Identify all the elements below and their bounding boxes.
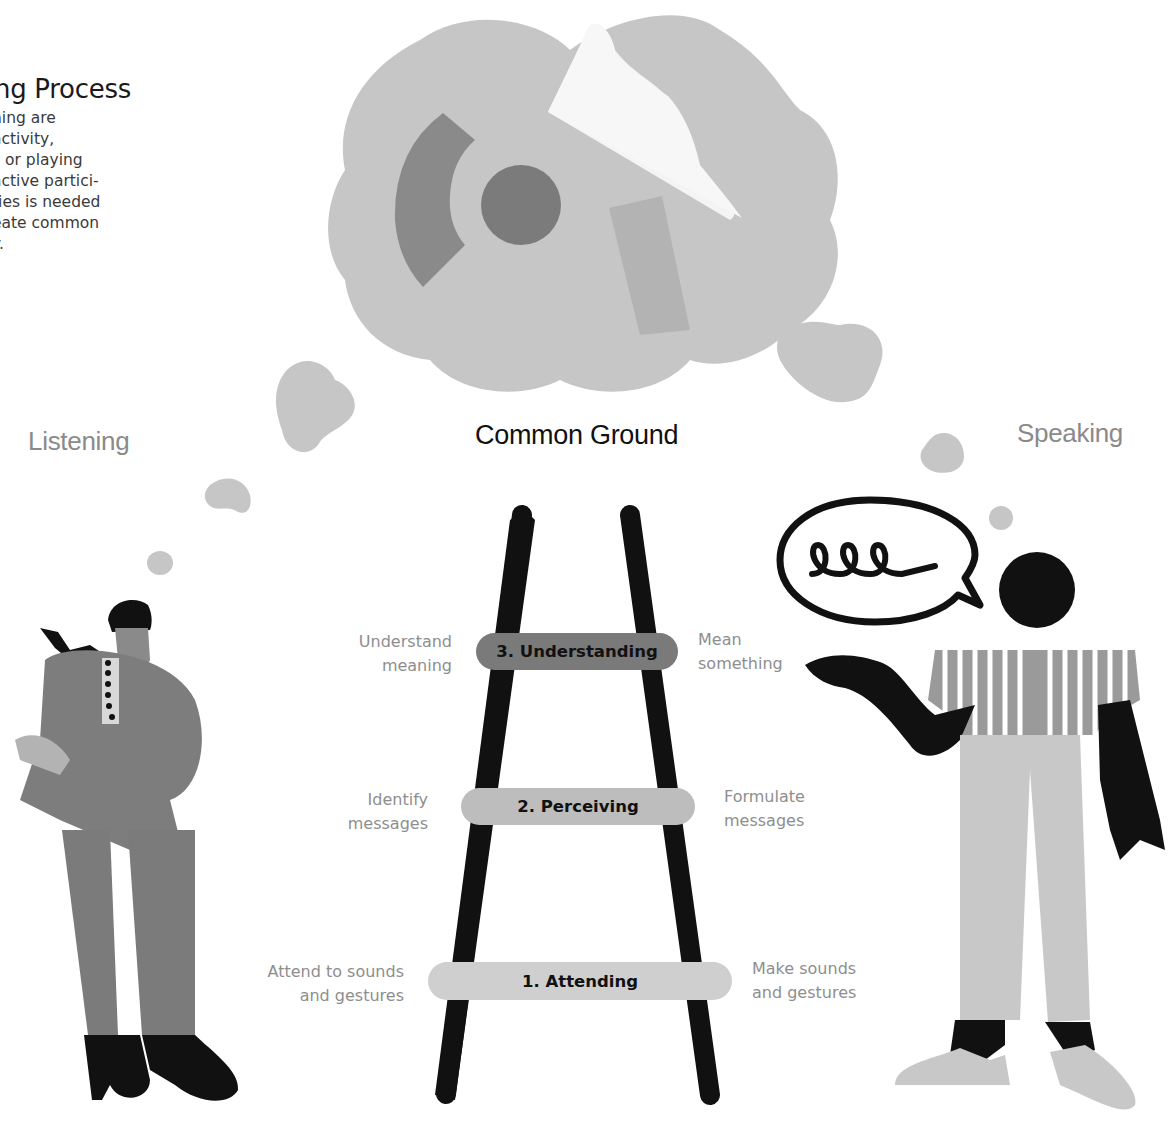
rung-label: 1. Attending <box>522 972 638 991</box>
thought-dot-right-2 <box>989 506 1013 530</box>
thought-dot-left-2 <box>147 551 173 575</box>
speaker-step-3: Mean something <box>698 628 818 676</box>
speech-bubble-icon <box>780 500 980 622</box>
listener-step-1: Attend to sounds and gestures <box>230 960 404 1008</box>
small-cloud-right <box>777 322 883 403</box>
rung-perceiving: 2. Perceiving <box>461 788 695 825</box>
common-ground-title: Common Ground <box>475 420 678 451</box>
listener-figure <box>15 600 238 1101</box>
speaking-label: Speaking <box>1017 418 1123 449</box>
speaker-step-1: Make sounds and gestures <box>752 957 892 1005</box>
speaker-figure <box>805 552 1165 1109</box>
thought-dot-left-1 <box>205 478 251 512</box>
speaker-step-2: Formulate messages <box>724 785 844 833</box>
rung-attending: 1. Attending <box>428 962 732 1000</box>
thought-cloud-icon <box>328 15 838 392</box>
thought-dot-right-1 <box>921 433 965 473</box>
intro-title: ng Process <box>0 74 131 104</box>
listener-step-2: Identify messages <box>300 788 428 836</box>
listener-step-3: Understand meaning <box>300 630 452 678</box>
intro-body: ning are activity, z or playing active p… <box>0 108 162 255</box>
small-cloud-left <box>276 361 355 452</box>
listening-label: Listening <box>28 426 129 457</box>
illustration-layer <box>0 0 1171 1123</box>
rung-label: 3. Understanding <box>496 642 657 661</box>
rung-understanding: 3. Understanding <box>476 633 678 670</box>
rung-label: 2. Perceiving <box>517 797 639 816</box>
